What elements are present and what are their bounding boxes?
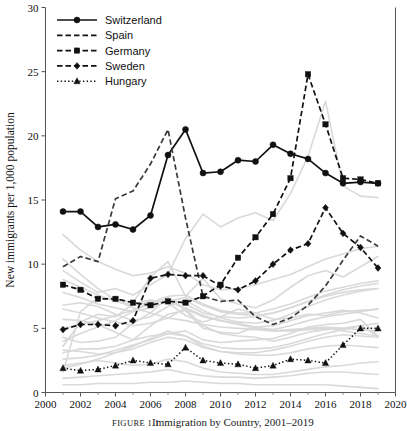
data-point-marker bbox=[323, 170, 329, 176]
data-point-marker bbox=[113, 221, 119, 227]
y-tick-label: 30 bbox=[28, 2, 40, 14]
data-point-marker bbox=[95, 296, 100, 301]
data-point-marker bbox=[165, 299, 170, 304]
legend-label: Sweden bbox=[105, 60, 145, 72]
y-axis-title: New immigrants per 1,000 population bbox=[4, 112, 17, 288]
data-point-marker bbox=[60, 282, 65, 287]
chart-background bbox=[0, 0, 407, 431]
y-tick-label: 25 bbox=[28, 66, 40, 78]
data-point-marker bbox=[253, 235, 258, 240]
data-point-marker bbox=[288, 175, 293, 180]
data-point-marker bbox=[165, 152, 171, 158]
legend-label: Spain bbox=[105, 29, 133, 41]
legend-label: Germany bbox=[105, 45, 151, 57]
immigration-line-chart: SwitzerlandSpainGermanySwedenHungary 051… bbox=[0, 0, 407, 431]
x-tick-label: 2020 bbox=[385, 398, 407, 410]
data-point-marker bbox=[200, 170, 206, 176]
data-point-marker bbox=[130, 300, 135, 305]
data-point-marker bbox=[74, 17, 80, 23]
figure-container: SwitzerlandSpainGermanySwedenHungary 051… bbox=[0, 0, 407, 431]
data-point-marker bbox=[130, 227, 136, 233]
y-tick-label: 20 bbox=[28, 130, 40, 142]
legend-label: Switzerland bbox=[105, 14, 162, 26]
data-point-marker bbox=[358, 177, 363, 182]
x-tick-label: 2012 bbox=[245, 398, 267, 410]
data-point-marker bbox=[200, 294, 205, 299]
data-point-marker bbox=[235, 255, 240, 260]
x-tick-label: 2008 bbox=[175, 398, 198, 410]
data-point-marker bbox=[95, 224, 101, 230]
data-point-marker bbox=[235, 157, 241, 163]
x-tick-label: 2004 bbox=[105, 398, 128, 410]
y-tick-label: 15 bbox=[28, 194, 40, 206]
data-point-marker bbox=[78, 209, 84, 215]
data-point-marker bbox=[74, 48, 79, 53]
data-point-marker bbox=[305, 72, 310, 77]
data-point-marker bbox=[113, 296, 118, 301]
legend-label: Hungary bbox=[105, 75, 147, 87]
data-point-marker bbox=[78, 287, 83, 292]
data-point-marker bbox=[183, 300, 188, 305]
data-point-marker bbox=[340, 180, 346, 186]
data-point-marker bbox=[253, 159, 259, 165]
x-tick-label: 2014 bbox=[280, 398, 303, 410]
x-tick-label: 2006 bbox=[140, 398, 163, 410]
data-point-marker bbox=[218, 169, 224, 175]
caption-title: Immigration by Country, 2001–2019 bbox=[152, 416, 314, 428]
x-tick-label: 2018 bbox=[350, 398, 373, 410]
data-point-marker bbox=[148, 212, 154, 218]
data-point-marker bbox=[305, 156, 311, 162]
data-point-marker bbox=[60, 209, 66, 215]
y-tick-label: 5 bbox=[33, 322, 39, 334]
data-point-marker bbox=[148, 303, 153, 308]
data-point-marker bbox=[375, 181, 380, 186]
y-tick-label: 10 bbox=[28, 258, 40, 270]
figure-caption: FIGURE 1.1Immigration by Country, 2001–2… bbox=[112, 416, 314, 428]
data-point-marker bbox=[288, 151, 294, 157]
x-tick-label: 2000 bbox=[35, 398, 58, 410]
x-tick-label: 2002 bbox=[70, 398, 92, 410]
x-tick-label: 2010 bbox=[210, 398, 233, 410]
data-point-marker bbox=[270, 142, 276, 148]
x-tick-label: 2016 bbox=[315, 398, 338, 410]
data-point-marker bbox=[323, 122, 328, 127]
data-point-marker bbox=[270, 211, 275, 216]
data-point-marker bbox=[340, 175, 345, 180]
data-point-marker bbox=[183, 126, 189, 132]
